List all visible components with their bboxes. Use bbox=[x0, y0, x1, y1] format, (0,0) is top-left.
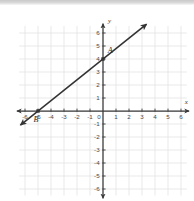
x-tick-label: -2 bbox=[74, 113, 80, 120]
x-tick-label: 3 bbox=[140, 113, 144, 120]
x-tick-label: 1 bbox=[114, 113, 118, 120]
point-marker bbox=[101, 57, 104, 60]
y-tick-label: -4 bbox=[94, 159, 100, 166]
axis-label-y: y bbox=[107, 17, 112, 25]
y-tick-label: 6 bbox=[96, 29, 100, 36]
x-tick-label: -3 bbox=[61, 113, 67, 120]
x-tick-label: 0 bbox=[97, 113, 101, 120]
y-tick-label: -6 bbox=[94, 185, 100, 192]
x-tick-label: -4 bbox=[48, 113, 54, 120]
point-marker bbox=[36, 109, 39, 112]
coordinate-plane-figure: -6-5-4-3-2-10123456-6-5-4-3-2-1123456 AB… bbox=[0, 5, 194, 201]
x-tick-label: 6 bbox=[179, 113, 183, 120]
y-tick-label: 5 bbox=[96, 42, 100, 49]
axis-label-x: x bbox=[184, 98, 189, 106]
y-tick-label: -1 bbox=[94, 120, 100, 127]
x-tick-label: 4 bbox=[153, 113, 157, 120]
axis-name-labels: xy bbox=[107, 17, 189, 106]
y-tick-label: -5 bbox=[94, 172, 100, 179]
y-tick-label: 1 bbox=[96, 94, 100, 101]
x-tick-label: 2 bbox=[127, 113, 131, 120]
y-tick-label: -2 bbox=[94, 133, 100, 140]
coordinate-plane-svg: -6-5-4-3-2-10123456-6-5-4-3-2-1123456 AB… bbox=[0, 5, 194, 201]
x-tick-label: -1 bbox=[87, 113, 93, 120]
point-label: B bbox=[34, 115, 39, 124]
point-label: A bbox=[107, 46, 113, 55]
y-tick-label: 2 bbox=[96, 81, 100, 88]
y-tick-label: -3 bbox=[94, 146, 100, 153]
y-tick-label: 3 bbox=[96, 68, 100, 75]
x-tick-label: 5 bbox=[166, 113, 170, 120]
graph-screenshot: -6-5-4-3-2-10123456-6-5-4-3-2-1123456 AB… bbox=[0, 0, 194, 201]
axes bbox=[17, 24, 189, 199]
